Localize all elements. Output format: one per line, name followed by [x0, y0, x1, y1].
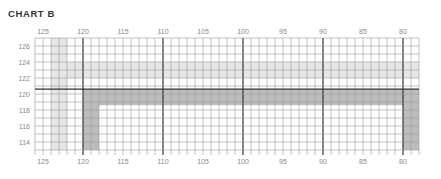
- x-tick-label: 115: [117, 158, 128, 165]
- x-tick-label: 115: [117, 28, 128, 35]
- chart-grid: 1251251201201151151101101051051001009595…: [0, 0, 441, 179]
- x-tick-label: 95: [279, 158, 287, 165]
- y-tick-label: 120: [18, 91, 30, 98]
- x-tick-label: 105: [197, 158, 209, 165]
- x-tick-label: 80: [399, 28, 407, 35]
- y-tick-label: 124: [18, 59, 30, 66]
- x-tick-label: 120: [77, 28, 89, 35]
- y-tick-label: 126: [18, 43, 30, 50]
- x-tick-label: 85: [359, 28, 367, 35]
- x-tick-label: 85: [359, 158, 367, 165]
- x-tick-label: 95: [279, 28, 287, 35]
- y-tick-label: 116: [19, 123, 30, 130]
- y-tick-label: 114: [19, 139, 30, 146]
- x-tick-label: 110: [157, 158, 168, 165]
- x-tick-label: 90: [319, 28, 327, 35]
- x-tick-label: 100: [237, 28, 249, 35]
- x-tick-label: 110: [157, 28, 168, 35]
- x-tick-label: 125: [37, 158, 49, 165]
- x-tick-label: 100: [237, 158, 249, 165]
- x-tick-label: 120: [77, 158, 89, 165]
- x-tick-label: 90: [319, 158, 327, 165]
- x-tick-label: 80: [399, 158, 407, 165]
- x-tick-label: 105: [197, 28, 209, 35]
- x-tick-label: 125: [37, 28, 49, 35]
- y-tick-label: 118: [19, 107, 30, 114]
- y-tick-label: 122: [18, 75, 30, 82]
